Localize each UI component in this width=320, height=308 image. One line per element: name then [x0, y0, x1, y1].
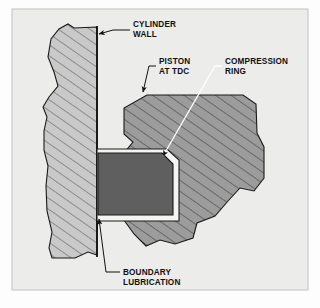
label-piston-at-tdc: PISTON AT TDC	[159, 57, 190, 76]
compression-ring-label-line2: RING	[225, 67, 246, 76]
compression-ring-label-line1: COMPRESSION	[225, 57, 288, 66]
boundary-lubrication-label-line1: BOUNDARY	[123, 268, 172, 277]
cylinder-wall	[43, 24, 97, 258]
cylinder-wall-label-line1: CYLINDER	[133, 20, 176, 29]
cylinder-wall-label-line2: WALL	[133, 30, 157, 39]
cylinder-wall-body	[43, 24, 97, 258]
piston-label-line1: PISTON	[159, 57, 190, 66]
boundary-lubrication-label-line2: LUBRICATION	[123, 278, 180, 287]
piston-ring-diagram: CYLINDER WALL PISTON AT TDC COMPRESSION …	[0, 0, 320, 308]
compression-ring	[98, 153, 173, 215]
piston-label-line2: AT TDC	[159, 67, 189, 76]
figure-root: CYLINDER WALL PISTON AT TDC COMPRESSION …	[0, 0, 320, 308]
